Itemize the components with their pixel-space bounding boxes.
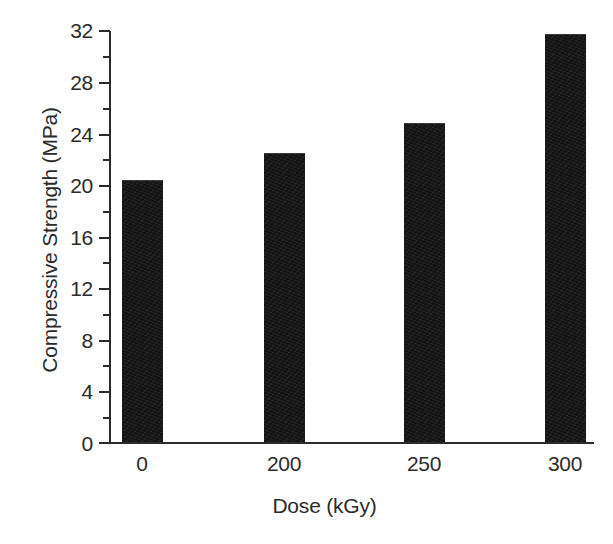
y-major-tick-8 [99,340,110,342]
y-tick-label-12: 12 [53,278,93,299]
y-tick-label-8: 8 [53,330,93,351]
x-tick-label-300: 300 [525,452,605,476]
y-major-tick-24 [99,134,110,136]
x-axis-title: Dose (kGy) [272,494,376,518]
bar-dose-300 [545,34,586,443]
y-major-tick-12 [99,288,110,290]
y-minor-tick-14 [103,262,110,264]
y-minor-tick-26 [103,108,110,110]
x-axis-line [109,442,594,444]
x-tick-label-250: 250 [384,452,464,476]
y-minor-tick-2 [103,417,110,419]
y-major-tick-32 [99,30,110,32]
bar-dose-0 [122,180,163,443]
y-minor-tick-6 [103,365,110,367]
y-major-tick-4 [99,391,110,393]
y-major-tick-16 [99,237,110,239]
y-minor-tick-18 [103,211,110,213]
y-major-tick-28 [99,82,110,84]
y-minor-tick-10 [103,314,110,316]
y-major-tick-20 [99,185,110,187]
y-tick-label-20: 20 [53,175,93,196]
y-tick-label-4: 4 [53,381,93,402]
x-axis-title-wrap: Dose (kGy) [0,494,613,518]
x-tick-label-200: 200 [244,452,324,476]
bar-dose-200 [264,153,305,443]
x-tick-label-0: 0 [102,452,182,476]
y-tick-label-28: 28 [53,72,93,93]
y-tick-label-32: 32 [53,20,93,41]
y-tick-label-24: 24 [53,124,93,145]
y-tick-label-16: 16 [53,227,93,248]
y-minor-tick-30 [103,56,110,58]
scan-artifact-text: . [0,532,613,544]
bar-chart-figure: Compressive Strength (MPa) 32 28 24 20 1… [0,0,613,544]
y-axis-tick-labels: 32 28 24 20 16 12 8 4 0 [48,0,93,544]
y-minor-tick-22 [103,159,110,161]
bar-dose-250 [404,123,445,443]
y-tick-label-0: 0 [53,433,93,454]
